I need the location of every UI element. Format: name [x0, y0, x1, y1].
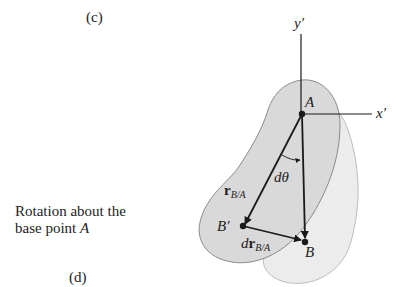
caption-line-2: base point A — [15, 220, 126, 237]
r-ba-symbol: r — [224, 182, 231, 198]
d-theta-label: dθ — [274, 170, 289, 185]
figure-label-c: (c) — [86, 10, 103, 25]
caption-line-1: Rotation about the — [15, 203, 126, 220]
figure-label-d: (d) — [69, 270, 87, 285]
d-theta-text: dθ — [274, 169, 289, 185]
y-prime-axis-label: y′ — [294, 16, 304, 31]
dr-ba-label: drB/A — [241, 236, 270, 253]
r-ba-subscript: B/A — [231, 189, 246, 200]
point-a-dot — [299, 111, 305, 117]
point-b-prime-label: B′ — [217, 219, 229, 234]
point-b-prime-dot — [240, 223, 246, 229]
caption-point-a: A — [80, 220, 89, 236]
caption-line-2-text: base point — [15, 220, 80, 236]
r-ba-label: rB/A — [224, 183, 246, 200]
point-b-label: B — [305, 245, 314, 260]
dr-ba-d: d — [241, 235, 249, 251]
rigid-body-diagram — [0, 0, 396, 287]
figure-caption: Rotation about the base point A — [15, 203, 126, 237]
point-a-label: A — [305, 95, 314, 110]
x-prime-axis-label: x′ — [376, 106, 386, 121]
dr-ba-subscript: B/A — [255, 242, 270, 253]
